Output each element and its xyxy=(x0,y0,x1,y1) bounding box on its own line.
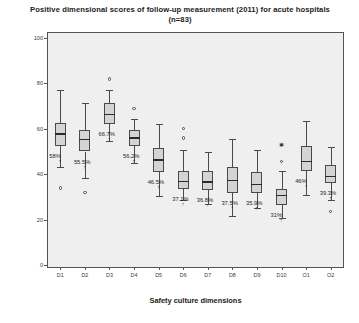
x-tick-mark xyxy=(134,267,135,270)
outlier-marker xyxy=(83,191,86,194)
median-label-arrow: ↑ xyxy=(108,137,111,142)
x-tick-label: D6 xyxy=(171,272,195,278)
y-tick-label: 100 xyxy=(17,35,43,41)
whisker-upper xyxy=(85,103,86,130)
whisker-cap-upper xyxy=(254,150,261,151)
median-line xyxy=(325,176,336,177)
median-label-arrow: ↑ xyxy=(329,196,332,201)
whisker-cap-lower xyxy=(57,167,64,168)
y-tick-mark xyxy=(44,265,47,266)
median-line xyxy=(104,114,115,115)
y-tick-label: 40 xyxy=(17,171,43,177)
median-value-label: 37.1% xyxy=(172,196,188,202)
median-line xyxy=(276,195,287,196)
whisker-cap-lower xyxy=(229,216,236,217)
whisker-cap-upper xyxy=(279,171,286,172)
outlier-marker xyxy=(182,136,185,139)
median-label-arrow: ↑ xyxy=(83,165,86,170)
median-line xyxy=(251,184,262,185)
whisker-upper xyxy=(282,171,283,189)
outlier-marker xyxy=(108,77,111,80)
median-line xyxy=(129,137,140,138)
x-tick-label: D9 xyxy=(245,272,269,278)
box xyxy=(202,171,213,190)
x-tick-label: D4 xyxy=(122,272,146,278)
chart-title: Positive dimensional scores of follow-up… xyxy=(20,5,340,25)
whisker-upper xyxy=(232,139,233,167)
x-tick-mark xyxy=(257,267,258,270)
box xyxy=(325,165,336,183)
x-tick-label: D7 xyxy=(196,272,220,278)
x-tick-mark xyxy=(183,267,184,270)
x-tick-mark xyxy=(331,267,332,270)
y-tick-label: 60 xyxy=(17,126,43,132)
median-line xyxy=(227,180,238,181)
median-value-label: 36.8% xyxy=(197,197,213,203)
boxplot-chart: Positive dimensional scores of follow-up… xyxy=(0,0,359,323)
whisker-upper xyxy=(60,90,61,123)
extreme-outlier-marker: ✱ xyxy=(279,142,284,148)
median-label-arrow: ↑ xyxy=(133,159,136,164)
whisker-upper xyxy=(257,150,258,172)
whisker-upper xyxy=(183,150,184,170)
y-tick-mark xyxy=(44,174,47,175)
median-value-label: 39.3% xyxy=(320,190,336,196)
median-line xyxy=(153,159,164,160)
whisker-cap-upper xyxy=(229,139,236,140)
box xyxy=(301,146,312,171)
whisker-cap-upper xyxy=(303,121,310,122)
box xyxy=(276,189,287,205)
x-tick-label: D3 xyxy=(97,272,121,278)
median-value-label: 66.7% xyxy=(98,131,114,137)
x-tick-mark xyxy=(159,267,160,270)
whisker-cap-upper xyxy=(57,90,64,91)
median-label-arrow: ↑ xyxy=(59,159,62,164)
y-tick-label: 20 xyxy=(17,217,43,223)
median-line xyxy=(55,133,66,134)
median-label-arrow: ↑ xyxy=(157,185,160,190)
x-tick-mark xyxy=(306,267,307,270)
x-tick-mark xyxy=(109,267,110,270)
whisker-cap-upper xyxy=(156,124,163,125)
median-label-arrow: ↑ xyxy=(206,203,209,208)
x-tick-label: D8 xyxy=(220,272,244,278)
outlier-marker xyxy=(132,107,135,110)
box xyxy=(79,130,90,152)
whisker-upper xyxy=(134,119,135,130)
whisker-cap-upper xyxy=(106,90,113,91)
whisker-cap-upper xyxy=(205,152,212,153)
y-tick-label: 0 xyxy=(17,262,43,268)
median-label-arrow: ↑ xyxy=(182,202,185,207)
median-line xyxy=(79,139,90,140)
x-tick-mark xyxy=(232,267,233,270)
whisker-cap-upper xyxy=(328,147,335,148)
median-line xyxy=(178,181,189,182)
whisker-cap-upper xyxy=(82,103,89,104)
median-value-label: 35.9% xyxy=(246,200,262,206)
median-line xyxy=(301,161,312,162)
median-line xyxy=(202,181,213,182)
whisker-upper xyxy=(331,147,332,165)
x-tick-label: D1 xyxy=(48,272,72,278)
outlier-marker xyxy=(59,186,62,189)
median-value-label: 46.5% xyxy=(148,179,164,185)
median-label-arrow: ↑ xyxy=(280,218,283,223)
x-tick-label: D5 xyxy=(147,272,171,278)
y-tick-mark xyxy=(44,220,47,221)
median-label-arrow: ↑ xyxy=(255,206,258,211)
median-value-label: 56.2% xyxy=(123,153,139,159)
plot-area xyxy=(47,32,344,268)
x-tick-mark xyxy=(208,267,209,270)
x-tick-label: D2 xyxy=(73,272,97,278)
y-tick-label: 80 xyxy=(17,80,43,86)
x-tick-mark xyxy=(282,267,283,270)
y-tick-mark xyxy=(44,83,47,84)
median-value-label: 55.5% xyxy=(74,159,90,165)
whisker-upper xyxy=(306,121,307,146)
median-value-label: 37.5% xyxy=(221,200,237,206)
whisker-upper xyxy=(208,152,209,171)
whisker-cap-lower xyxy=(303,195,310,196)
x-tick-label: D10 xyxy=(270,272,294,278)
median-label-arrow: ↑ xyxy=(231,206,234,211)
whisker-cap-upper xyxy=(180,150,187,151)
